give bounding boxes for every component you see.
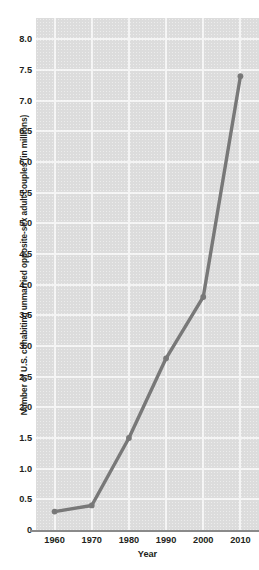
series-line <box>55 76 241 511</box>
x-tick-label: 2000 <box>183 535 223 546</box>
x-tick-label: 1960 <box>35 535 75 546</box>
x-axis-line <box>30 530 259 532</box>
y-axis-title: Number of U.S. cohabiting unmarried oppo… <box>16 0 32 530</box>
data-point-1990 <box>163 355 169 361</box>
data-point-2010 <box>238 73 244 79</box>
data-point-1970 <box>89 503 95 509</box>
data-point-1980 <box>126 435 132 441</box>
data-point-1960 <box>52 509 58 515</box>
x-tick-label: 1970 <box>72 535 112 546</box>
chart-figure: Number of U.S. cohabiting unmarried oppo… <box>0 0 259 570</box>
data-point-2000 <box>200 294 206 300</box>
line-series <box>36 18 259 530</box>
x-axis-title: Year <box>36 549 259 559</box>
plot-area <box>36 18 259 530</box>
x-tick-label: 1990 <box>146 535 186 546</box>
x-tick-label: 2010 <box>220 535 259 546</box>
x-tick-label: 1980 <box>109 535 149 546</box>
